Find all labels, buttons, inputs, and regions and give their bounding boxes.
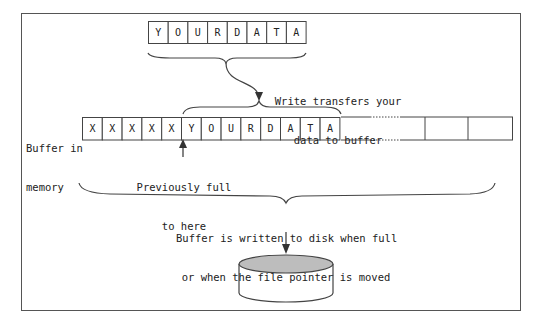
flush-label-line2: or when the file pointer is moved (176, 271, 396, 284)
source-cell: T (267, 22, 287, 44)
source-cell: U (188, 22, 208, 44)
source-cell: A (286, 22, 306, 44)
buffer-cell-value: U (228, 123, 234, 134)
buffer-cell: X (83, 118, 103, 141)
buffer-cell: X (162, 118, 182, 141)
buffer-cell-value: R (248, 123, 255, 134)
transfer-arrow (226, 63, 259, 98)
source-cell-value: O (175, 27, 181, 38)
buffer-cell: O (201, 118, 221, 141)
source-cell: A (247, 22, 267, 44)
transfer-label: Write transfers your data to buffer (268, 69, 408, 160)
buffer-cell: R (241, 118, 261, 141)
buffer-cell: X (102, 118, 122, 141)
transfer-label-line2: data to buffer (268, 134, 408, 147)
source-cell-value: D (234, 27, 240, 38)
source-array: YOURDATA (149, 22, 307, 44)
source-cell-value: T (274, 27, 280, 38)
transfer-label-line1: Write transfers your (268, 95, 408, 108)
source-cell: O (168, 22, 188, 44)
buffer-cell: U (221, 118, 241, 141)
buffer-label: Buffer in memory (26, 116, 83, 207)
source-cell: D (227, 22, 247, 44)
buffer-label-line1: Buffer in (26, 142, 83, 155)
source-cell-value: U (195, 27, 201, 38)
source-cell-value: A (293, 27, 299, 38)
buffer-cell-value: X (149, 123, 155, 134)
buffer-cell: X (122, 118, 142, 141)
source-cell: R (208, 22, 228, 44)
flush-label-line1: Buffer is written to disk when full (176, 232, 396, 245)
buffer-cell: Y (182, 118, 202, 141)
source-cell-value: Y (155, 27, 161, 38)
buffer-cell-value: Y (188, 123, 194, 134)
buffer-cell-value: X (129, 123, 135, 134)
buffer-cell-value: X (169, 123, 175, 134)
source-cell-value: A (254, 27, 260, 38)
source-brace (148, 53, 306, 63)
source-cell: Y (149, 22, 169, 44)
buffer-cell-value: X (89, 123, 95, 134)
source-cell-value: R (214, 27, 221, 38)
buffer-cell-value: X (109, 123, 115, 134)
flush-label: Buffer is written to disk when full or w… (176, 206, 396, 297)
previous-label-line1: Previously full (134, 181, 234, 194)
buffer-label-line2: memory (26, 181, 83, 194)
buffer-cell: X (142, 118, 162, 141)
buffer-cell-value: O (208, 123, 214, 134)
